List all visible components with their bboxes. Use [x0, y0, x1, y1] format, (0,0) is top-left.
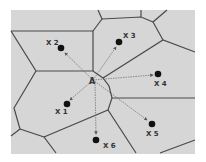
site-x1	[64, 101, 71, 108]
site-x4	[155, 71, 162, 78]
voronoi-diagram: A X 1 X 2 X 3 X 4 X 5 X 6	[0, 0, 206, 162]
site-label-x2: X 2	[46, 39, 59, 47]
site-label-x4: X 4	[154, 80, 167, 88]
site-label-x6: X 6	[103, 142, 116, 150]
site-label-x3: X 3	[123, 32, 136, 40]
site-label-x5: X 5	[146, 130, 159, 138]
query-point-label: A	[89, 77, 96, 86]
site-x5	[149, 121, 156, 128]
site-label-x1: X 1	[55, 108, 68, 116]
site-x3	[116, 39, 123, 46]
site-x6	[93, 137, 100, 144]
